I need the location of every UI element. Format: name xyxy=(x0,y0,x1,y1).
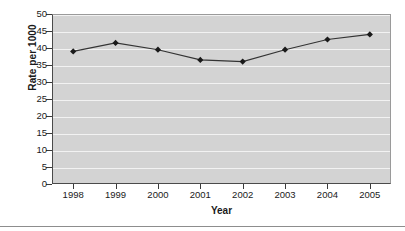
y-tick-label: 10 xyxy=(7,145,47,155)
y-tick-label: 15 xyxy=(7,128,47,138)
y-tick-label: 5 xyxy=(7,162,47,172)
x-tick-label: 1998 xyxy=(50,190,96,200)
bottom-divider xyxy=(0,226,405,227)
x-tick-label: 2001 xyxy=(177,190,223,200)
series-polyline xyxy=(73,34,370,61)
y-tick-label: 40 xyxy=(7,43,47,53)
y-tick-label: 30 xyxy=(7,77,47,87)
x-tick-label: 2005 xyxy=(347,190,393,200)
data-point-marker xyxy=(112,40,118,46)
x-tick-label: 2002 xyxy=(220,190,266,200)
x-tick-label: 2000 xyxy=(135,190,181,200)
data-point-marker xyxy=(70,48,76,54)
data-point-marker xyxy=(367,31,373,37)
x-tick-label: 2004 xyxy=(304,190,350,200)
y-tick-label: 20 xyxy=(7,111,47,121)
data-point-marker xyxy=(155,47,161,53)
x-axis-title: Year xyxy=(52,205,391,216)
chart-figure: Rate per 1000 05101520253035404550 19981… xyxy=(0,0,405,231)
x-tick-label: 1999 xyxy=(93,190,139,200)
data-point-marker xyxy=(240,59,246,65)
series-markers xyxy=(70,31,373,64)
y-tick-label: 25 xyxy=(7,94,47,104)
x-tick-label: 2003 xyxy=(262,190,308,200)
data-point-marker xyxy=(324,36,330,42)
y-tick-label: 35 xyxy=(7,60,47,70)
y-tick-label: 0 xyxy=(7,179,47,189)
data-series-line xyxy=(52,14,391,184)
data-point-marker xyxy=(197,57,203,63)
data-point-marker xyxy=(282,47,288,53)
y-tick-label: 50 xyxy=(7,9,47,19)
y-tick-label: 45 xyxy=(7,26,47,36)
